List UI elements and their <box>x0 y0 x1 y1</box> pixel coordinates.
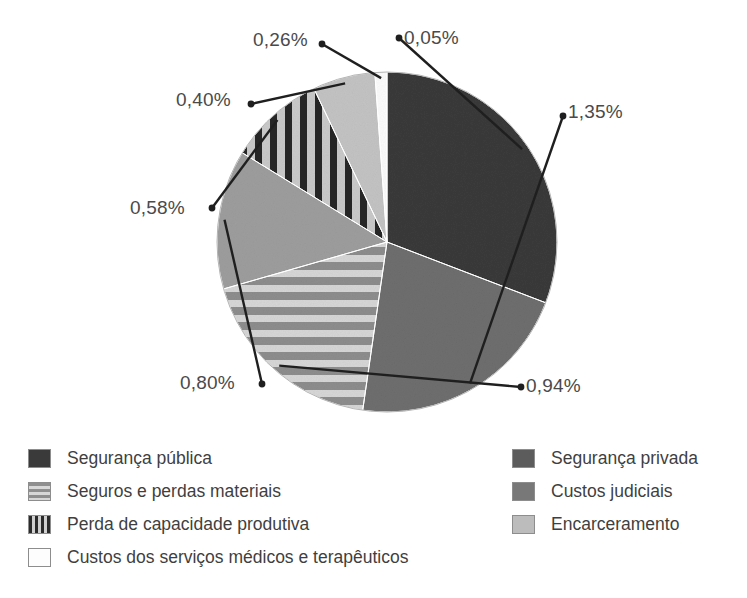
callout-1: 1,35% <box>568 101 623 123</box>
legend-swatch-icon <box>28 548 51 567</box>
legend-label: Seguros e perdas materiais <box>67 481 281 502</box>
legend-column-right: Segurança privada Custos judiciais Encar… <box>512 443 698 542</box>
legend-label: Custos dos serviços médicos e terapêutic… <box>67 547 408 568</box>
callout-6: 0,26% <box>253 29 308 51</box>
leader-line <box>322 44 381 78</box>
leader-dot <box>209 205 216 212</box>
legend-label: Encarceramento <box>551 514 679 535</box>
legend-item-seguranca-publica: Segurança pública <box>28 443 408 473</box>
legend-label: Segurança pública <box>67 448 212 469</box>
legend-swatch-icon <box>512 449 535 468</box>
callout-4: 0,58% <box>130 197 185 219</box>
legend-swatch-icon <box>28 449 51 468</box>
legend-item-custos-judiciais: Custos judiciais <box>512 476 698 506</box>
legend-swatch-icon <box>28 515 51 534</box>
leader-dot <box>396 35 403 42</box>
legend-item-custos-dos-servicos-medicos: Custos dos serviços médicos e terapêutic… <box>28 542 408 572</box>
legend-swatch-icon <box>512 482 535 501</box>
pie-chart: 0,05% 1,35% 0,94% 0,80% 0,58% 0,40% 0,26… <box>0 0 747 598</box>
legend-label: Perda de capacidade produtiva <box>67 514 309 535</box>
leader-dot <box>259 381 266 388</box>
leader-dot <box>518 384 525 391</box>
callout-2: 0,94% <box>526 375 581 397</box>
callout-0: 0,05% <box>404 27 459 49</box>
legend-item-encarceramento: Encarceramento <box>512 509 698 539</box>
legend-swatch-icon <box>28 482 51 501</box>
legend-item-seguranca-privada: Segurança privada <box>512 443 698 473</box>
legend-column-left: Segurança pública Seguros e perdas mater… <box>28 443 408 575</box>
callout-5: 0,40% <box>176 89 231 111</box>
legend-item-perda-de-capacidade-produtiva: Perda de capacidade produtiva <box>28 509 408 539</box>
legend-label: Segurança privada <box>551 448 698 469</box>
legend-label: Custos judiciais <box>551 481 673 502</box>
legend-swatch-icon <box>512 515 535 534</box>
chart-legend: Segurança pública Seguros e perdas mater… <box>0 443 747 593</box>
leader-dot <box>319 41 326 48</box>
leader-dot <box>248 101 255 108</box>
legend-item-seguros-e-perdas-materiais: Seguros e perdas materiais <box>28 476 408 506</box>
leader-dot <box>560 113 567 120</box>
callout-3: 0,80% <box>180 372 235 394</box>
